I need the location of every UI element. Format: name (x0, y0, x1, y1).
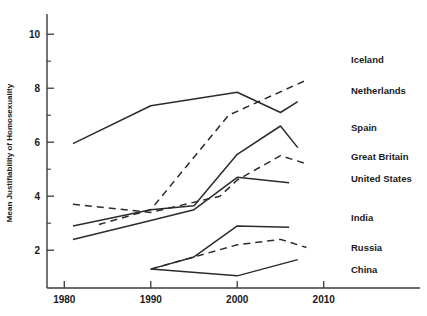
y-tick-label: 4 (34, 191, 40, 202)
y-tick-label: 10 (29, 29, 41, 40)
chart-series-labels: IcelandNetherlandsSpainGreat BritainUnit… (351, 54, 412, 275)
series-label-china: China (351, 264, 378, 275)
y-tick-label: 6 (34, 137, 40, 148)
series-label-russia: Russia (351, 242, 383, 253)
series-label-india: India (351, 212, 374, 223)
series-line-russia (151, 239, 307, 269)
y-tick-label: 8 (34, 83, 40, 94)
series-label-united-states: United States (351, 173, 412, 184)
y-axis-title-text: Mean Justifiability of Homosexuality (5, 83, 14, 222)
series-label-iceland: Iceland (351, 54, 384, 65)
chart-ticks (47, 34, 324, 288)
chart-series-lines (73, 80, 306, 276)
y-axis-title: Mean Justifiability of Homosexuality (5, 83, 14, 222)
x-tick-label: 1990 (140, 294, 163, 305)
series-label-spain: Spain (351, 122, 377, 133)
series-line-india (151, 226, 289, 269)
x-tick-label: 2010 (313, 294, 336, 305)
series-line-china (151, 260, 298, 276)
series-line-great-britain (73, 156, 306, 213)
series-label-netherlands: Netherlands (351, 85, 406, 96)
series-label-great-britain: Great Britain (351, 151, 409, 162)
line-chart: 2468101980199020002010 IcelandNetherland… (0, 0, 427, 316)
x-tick-label: 2000 (226, 294, 249, 305)
series-line-spain (73, 126, 298, 226)
chart-tick-labels: 2468101980199020002010 (29, 29, 335, 305)
y-tick-label: 2 (34, 245, 40, 256)
series-line-netherlands (73, 92, 298, 143)
chart-container: 2468101980199020002010 IcelandNetherland… (0, 0, 427, 316)
x-tick-label: 1980 (53, 294, 76, 305)
series-line-united-states (73, 177, 289, 239)
